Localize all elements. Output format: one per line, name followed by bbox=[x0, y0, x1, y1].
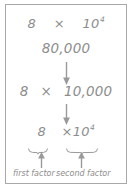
factored-value: 10,000 bbox=[64, 83, 112, 99]
expression-factored: 8 × 10,000 bbox=[6, 85, 126, 99]
underbrace-second-factor bbox=[66, 140, 98, 147]
multiplication-sign: × bbox=[62, 124, 73, 139]
multiplication-sign: × bbox=[54, 17, 65, 30]
arrow-down-icon bbox=[62, 104, 71, 126]
expression-expanded-notation: 8 × 104 bbox=[6, 17, 126, 30]
labeled-base: 10 bbox=[73, 124, 90, 139]
underbrace-first-factor bbox=[28, 140, 48, 147]
factor-labels-row: first factor second factor bbox=[6, 170, 126, 184]
arrow-up-icon-first-factor bbox=[37, 152, 46, 168]
expression-labeled-factors: 8 ×104 bbox=[6, 125, 126, 138]
product-value: 80,000 bbox=[42, 40, 90, 56]
multiplication-sign: × bbox=[40, 83, 52, 99]
label-second-factor: second factor bbox=[56, 170, 111, 178]
label-first-factor: first factor bbox=[13, 170, 55, 178]
factored-coefficient: 8 bbox=[20, 83, 29, 99]
labeled-first-factor: 8 bbox=[37, 124, 45, 139]
diagram-frame: 8 × 104 80,000 8 × 10,000 8 ×104 bbox=[5, 4, 127, 184]
expanded-base: 10 bbox=[83, 17, 100, 30]
labeled-exponent: 4 bbox=[90, 123, 95, 132]
expanded-exponent: 4 bbox=[100, 15, 105, 24]
expanded-coefficient: 8 bbox=[28, 17, 36, 30]
arrow-up-icon-second-factor bbox=[77, 152, 86, 168]
expression-product: 80,000 bbox=[6, 42, 126, 56]
